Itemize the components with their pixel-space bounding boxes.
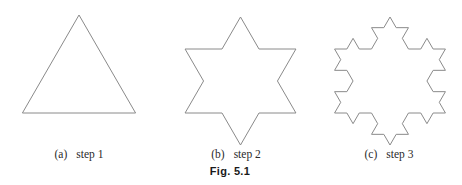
caption-b: (b)step 2 [211,148,261,160]
caption-c-text: step 3 [386,148,413,160]
koch-step-2-star [185,17,296,145]
koch-step-1-triangle [22,15,135,113]
caption-b-tag: (b) [211,148,224,160]
koch-step-3-snowflake [335,17,446,145]
figure-label: Fig. 5.1 [210,165,250,177]
caption-c-tag: (c) [365,148,378,160]
caption-a: (a)step 1 [55,148,104,160]
caption-b-text: step 2 [234,148,261,160]
caption-a-text: step 1 [76,148,103,160]
caption-c: (c)step 3 [365,148,414,160]
caption-a-tag: (a) [55,148,68,160]
